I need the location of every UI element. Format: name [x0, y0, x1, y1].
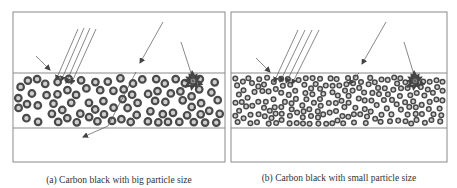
carbon-particle	[165, 119, 172, 126]
carbon-particle	[49, 111, 56, 118]
carbon-particle	[385, 78, 390, 83]
carbon-particle	[59, 107, 66, 114]
carbon-particle	[309, 114, 314, 119]
carbon-particle	[396, 118, 401, 123]
carbon-particle	[312, 101, 317, 106]
carbon-particle	[287, 93, 292, 98]
carbon-particle	[362, 90, 367, 95]
carbon-particle	[281, 84, 286, 89]
carbon-particle	[235, 83, 240, 88]
carbon-particle	[188, 104, 195, 111]
carbon-particle	[133, 112, 140, 119]
carbon-particle	[426, 87, 431, 92]
carbon-particle	[334, 101, 339, 106]
carbon-particle	[289, 101, 294, 106]
carbon-particle	[414, 105, 419, 110]
carbon-particle	[390, 98, 395, 103]
carbon-particle	[399, 107, 404, 112]
carbon-particle	[318, 76, 323, 81]
carbon-particle	[395, 81, 400, 86]
carbon-particle	[191, 119, 198, 126]
carbon-particle	[339, 99, 344, 104]
carbon-particle	[266, 121, 271, 126]
carbon-particle	[283, 100, 288, 105]
carbon-particle	[168, 90, 175, 97]
carbon-particle	[101, 111, 108, 118]
carbon-particle	[130, 80, 137, 87]
carbon-particle	[15, 95, 22, 102]
carbon-particle	[78, 77, 85, 84]
carbon-black-diagram: (a) Carbon black with big particle size …	[0, 0, 457, 188]
carbon-particle	[434, 97, 439, 102]
carbon-particle	[301, 115, 306, 120]
carbon-particle	[177, 88, 184, 95]
carbon-particle	[252, 90, 257, 95]
carbon-particle	[263, 114, 268, 119]
carbon-particle	[304, 97, 309, 102]
carbon-particle	[43, 92, 50, 99]
carbon-particle	[216, 111, 223, 118]
carbon-particle	[423, 120, 428, 125]
carbon-particle	[327, 101, 332, 106]
carbon-particle	[373, 116, 378, 121]
carbon-particle	[435, 85, 440, 90]
carbon-particle	[29, 90, 36, 97]
carbon-particle	[145, 91, 152, 98]
carbon-particle	[124, 105, 131, 112]
carbon-particle	[260, 89, 265, 94]
carbon-particle	[310, 92, 315, 97]
carbon-particle	[179, 97, 186, 104]
carbon-particle	[245, 95, 250, 100]
carbon-particle	[83, 85, 90, 92]
carbon-particle	[352, 120, 357, 125]
carbon-particle	[376, 86, 381, 91]
carbon-particle	[362, 98, 367, 103]
carbon-particle	[394, 102, 399, 107]
carbon-particle	[294, 121, 299, 126]
carbon-particle	[414, 91, 419, 96]
carbon-particle	[374, 103, 379, 108]
carbon-particle	[197, 111, 204, 118]
carbon-particle	[420, 112, 425, 117]
carbon-particle	[350, 88, 355, 93]
carbon-particle	[139, 76, 146, 83]
carbon-particle	[301, 121, 306, 126]
carbon-particle	[289, 107, 294, 112]
carbon-particle	[271, 97, 276, 102]
carbon-particle	[363, 107, 368, 112]
carbon-particle	[35, 119, 42, 126]
carbon-particle	[248, 121, 253, 126]
carbon-particle	[330, 121, 335, 126]
carbon-particle	[318, 86, 323, 91]
carbon-particle	[389, 112, 394, 117]
carbon-particle	[208, 89, 215, 96]
carbon-particle	[408, 93, 413, 98]
carbon-particle	[50, 100, 57, 107]
carbon-particle	[100, 98, 107, 105]
carbon-particle	[255, 120, 260, 125]
carbon-particle	[307, 121, 312, 126]
carbon-particle	[42, 81, 49, 88]
carbon-particle	[155, 119, 162, 126]
carbon-particle	[279, 105, 284, 110]
carbon-particle	[118, 116, 125, 123]
carbon-particle	[388, 119, 393, 124]
carbon-particle	[365, 114, 370, 119]
carbon-particle	[340, 114, 345, 119]
carbon-particle	[134, 100, 141, 107]
carbon-particle	[256, 112, 261, 117]
carbon-particle	[385, 106, 390, 111]
carbon-particle	[237, 108, 242, 113]
panel-a-caption: (a) Carbon black with big particle size	[46, 175, 192, 186]
carbon-particle	[370, 91, 375, 96]
carbon-particle	[246, 76, 251, 81]
carbon-particle	[330, 84, 335, 89]
carbon-particle	[366, 82, 371, 87]
carbon-particle	[419, 103, 424, 108]
carbon-particle	[399, 86, 404, 91]
panel-a: (a) Carbon black with big particle size	[13, 12, 225, 186]
carbon-particle	[233, 114, 238, 119]
carbon-particle	[248, 112, 253, 117]
carbon-particle	[346, 114, 351, 119]
carbon-particle	[237, 92, 242, 97]
